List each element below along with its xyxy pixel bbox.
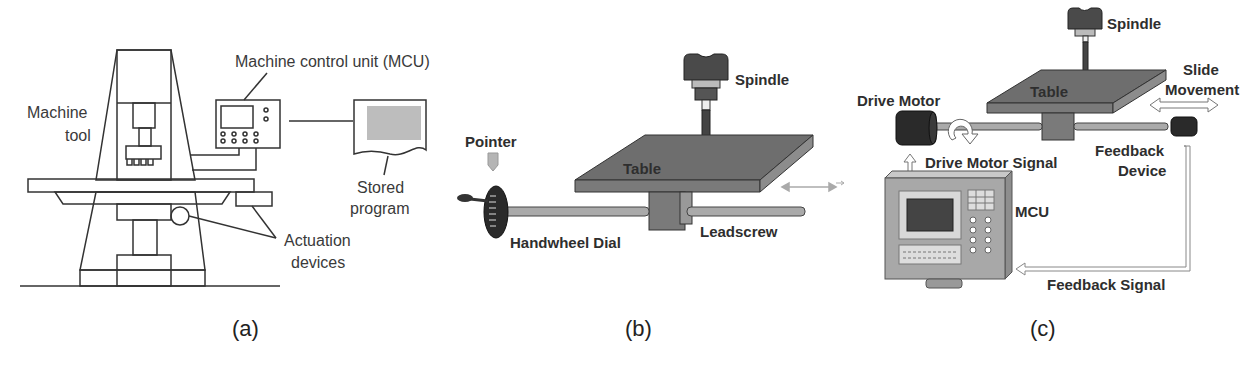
drive-motor-signal-arrow-icon	[904, 154, 916, 172]
label-spindle-c: Spindle	[1107, 15, 1161, 32]
handwheel-dial-icon	[484, 186, 508, 238]
label-spindle-b: Spindle	[735, 71, 789, 88]
spindle-icon	[684, 54, 728, 80]
pointer-arrow-icon	[488, 153, 498, 171]
panel-a-machine-tool-diagram	[20, 50, 426, 286]
label-slide-1: Slide	[1183, 61, 1219, 78]
label-feedback-signal: Feedback Signal	[1047, 276, 1165, 293]
label-machine-tool-2: tool	[65, 127, 91, 144]
column-inner	[117, 50, 171, 180]
caption-c: (c)	[1030, 316, 1056, 341]
actuation-device-circle	[171, 207, 189, 225]
label-actuation-2: devices	[291, 254, 345, 271]
label-machine-tool-1: Machine	[27, 104, 88, 121]
slide-movement-arrow-icon	[1150, 98, 1218, 112]
label-handwheel-dial: Handwheel Dial	[510, 234, 621, 251]
caption-a: (a)	[232, 316, 259, 341]
label-feedback-device-1: Feedback	[1095, 142, 1165, 159]
label-slide-2: Movement	[1165, 81, 1239, 98]
caption-b-visible: (b)	[625, 316, 652, 341]
label-stored-program-2: program	[350, 200, 410, 217]
label-mcu-c: MCU	[1015, 203, 1049, 220]
label-leadscrew: Leadscrew	[700, 223, 778, 240]
label-pointer: Pointer	[465, 133, 517, 150]
label-actuation-1: Actuation	[284, 232, 351, 249]
leadscrew	[495, 207, 649, 216]
label-stored-program-1: Stored	[357, 179, 404, 196]
figure-canvas: Machine control unit (MCU) Machine tool …	[0, 0, 1255, 369]
machine-table	[28, 179, 254, 192]
feedback-device-icon	[1171, 117, 1197, 136]
captions: (a) (b) (b) (c)	[232, 316, 1056, 341]
label-mcu: Machine control unit (MCU)	[235, 53, 430, 70]
table-motion-arrow-icon	[782, 183, 836, 191]
label-feedback-device-2: Device	[1118, 162, 1166, 179]
spindle-icon-c	[1068, 8, 1102, 29]
panel-a-labels: Machine control unit (MCU) Machine tool …	[27, 53, 430, 271]
label-drive-motor: Drive Motor	[857, 92, 941, 109]
label-table-c: Table	[1030, 83, 1068, 100]
label-drive-motor-signal: Drive Motor Signal	[925, 154, 1058, 171]
label-table-b: Table	[623, 160, 661, 177]
